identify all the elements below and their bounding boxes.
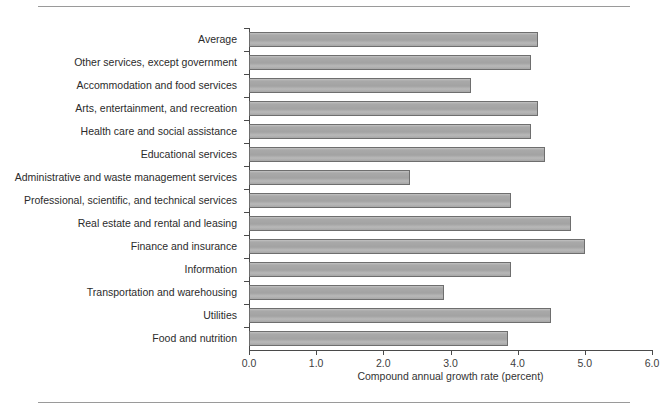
plot-area: 0.01.02.03.04.05.06.0: [249, 28, 652, 350]
bar[interactable]: [249, 101, 538, 116]
x-axis-tick-label: 2.0: [363, 357, 403, 369]
bar[interactable]: [249, 308, 551, 323]
x-axis-tick-label: 3.0: [431, 357, 471, 369]
bar-row[interactable]: [249, 281, 652, 304]
x-axis-tick: [585, 350, 586, 355]
bottom-divider-rule: [38, 402, 630, 403]
bar-row[interactable]: [249, 327, 652, 350]
bar[interactable]: [249, 216, 571, 231]
category-label: Health care and social assistance: [0, 124, 243, 139]
bar[interactable]: [249, 147, 545, 162]
bar[interactable]: [249, 124, 531, 139]
top-divider-rule: [38, 6, 630, 7]
bar-row[interactable]: [249, 28, 652, 51]
bar[interactable]: [249, 193, 511, 208]
bar-row[interactable]: [249, 258, 652, 281]
x-axis-tick-label: 1.0: [296, 357, 336, 369]
bar[interactable]: [249, 285, 444, 300]
bar-row[interactable]: [249, 189, 652, 212]
x-axis-tick-label: 0.0: [229, 357, 269, 369]
x-axis-tick: [652, 350, 653, 355]
bar[interactable]: [249, 239, 585, 254]
bar[interactable]: [249, 78, 471, 93]
category-axis-labels: AverageOther services, except government…: [0, 28, 243, 350]
bar-row[interactable]: [249, 51, 652, 74]
bar[interactable]: [249, 32, 538, 47]
bar-row[interactable]: [249, 304, 652, 327]
bar-row[interactable]: [249, 120, 652, 143]
category-label: Administrative and waste management serv…: [0, 170, 243, 185]
category-label: Utilities: [0, 308, 243, 323]
bar[interactable]: [249, 170, 410, 185]
category-label: Professional, scientific, and technical …: [0, 193, 243, 208]
x-axis-tick-label: 6.0: [632, 357, 668, 369]
bar-row[interactable]: [249, 74, 652, 97]
category-label: Other services, except government: [0, 55, 243, 70]
x-axis-tick-label: 5.0: [565, 357, 605, 369]
x-axis-tick: [518, 350, 519, 355]
category-label: Real estate and rental and leasing: [0, 216, 243, 231]
category-label: Educational services: [0, 147, 243, 162]
chart-figure: AverageOther services, except government…: [0, 0, 668, 415]
bar[interactable]: [249, 262, 511, 277]
x-axis-tick-label: 4.0: [498, 357, 538, 369]
x-axis-tick: [451, 350, 452, 355]
category-label: Food and nutrition: [0, 331, 243, 346]
bar-row[interactable]: [249, 166, 652, 189]
x-axis-tick: [316, 350, 317, 355]
category-label: Finance and insurance: [0, 239, 243, 254]
bar-row[interactable]: [249, 212, 652, 235]
category-label: Arts, entertainment, and recreation: [0, 101, 243, 116]
category-label: Information: [0, 262, 243, 277]
category-label: Average: [0, 32, 243, 47]
x-axis-tick: [383, 350, 384, 355]
category-label: Transportation and warehousing: [0, 285, 243, 300]
bar-row[interactable]: [249, 97, 652, 120]
x-axis-title: Compound annual growth rate (percent): [249, 370, 652, 382]
bar-row[interactable]: [249, 143, 652, 166]
bar[interactable]: [249, 331, 508, 346]
bar-row[interactable]: [249, 235, 652, 258]
category-label: Accommodation and food services: [0, 78, 243, 93]
bar[interactable]: [249, 55, 531, 70]
x-axis-tick: [249, 350, 250, 355]
